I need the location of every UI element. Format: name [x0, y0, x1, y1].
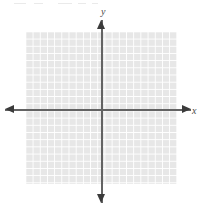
- y-axis-label: y: [101, 7, 105, 17]
- coordinate-plane-figure: x y: [0, 0, 207, 215]
- y-axis-line: [101, 20, 103, 203]
- arrow-right-icon: [182, 105, 191, 113]
- arrow-down-icon: [97, 194, 105, 203]
- x-axis-line: [5, 109, 191, 111]
- plot-data-layer: [0, 0, 207, 215]
- arrow-left-icon: [5, 105, 14, 113]
- x-axis-label: x: [192, 106, 196, 116]
- arrow-up-icon: [97, 20, 105, 29]
